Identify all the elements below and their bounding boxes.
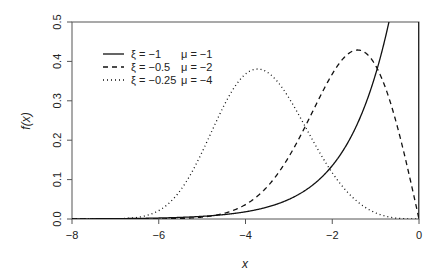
- y-tick-label: 0.1: [51, 172, 63, 187]
- curves: [72, 0, 419, 219]
- x-tick-label: 0: [416, 229, 422, 241]
- gev-density-chart: −8−6−4−200.00.10.20.30.40.5 ξ = −1μ = −1…: [0, 0, 443, 280]
- legend-mu-label: μ = −4: [181, 74, 212, 86]
- curve-dashed: [72, 50, 419, 219]
- x-tick-label: −4: [239, 229, 252, 241]
- x-tick-label: −8: [66, 229, 79, 241]
- y-tick-label: 0.4: [51, 54, 63, 69]
- y-axis-label: f(x): [19, 112, 33, 129]
- legend-mu-label: μ = −1: [181, 48, 212, 60]
- x-tick-label: −6: [152, 229, 165, 241]
- y-tick-label: 0.2: [51, 133, 63, 148]
- y-tick-label: 0.0: [51, 211, 63, 226]
- curve-solid: [72, 0, 419, 219]
- legend-mu-label: μ = −2: [181, 61, 212, 73]
- curve-dotted: [72, 69, 419, 219]
- legend: ξ = −1μ = −1ξ = −0.5μ = −2ξ = −0.25μ = −…: [103, 48, 212, 86]
- axes: −8−6−4−200.00.10.20.30.40.5: [51, 14, 422, 241]
- y-tick-label: 0.3: [51, 93, 63, 108]
- plot-frame: [72, 22, 419, 219]
- x-tick-label: −2: [326, 229, 339, 241]
- y-tick-label: 0.5: [51, 14, 63, 29]
- legend-xi-label: ξ = −0.25: [131, 74, 176, 86]
- legend-xi-label: ξ = −0.5: [131, 61, 170, 73]
- x-axis-label: x: [241, 257, 249, 271]
- legend-xi-label: ξ = −1: [131, 48, 161, 60]
